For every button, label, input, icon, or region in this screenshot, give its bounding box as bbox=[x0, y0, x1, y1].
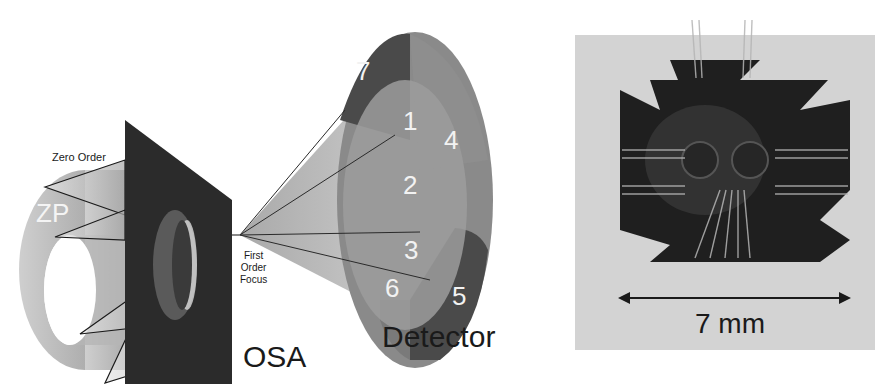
detector-segment-2: 2 bbox=[403, 172, 417, 198]
label-zone-plate: ZP bbox=[36, 200, 69, 226]
label-first-order-focus: First Order Focus bbox=[240, 250, 267, 286]
detector-segment-1: 1 bbox=[403, 108, 417, 134]
detector-segment-5: 5 bbox=[452, 283, 466, 309]
osa-plate bbox=[125, 120, 232, 384]
detector-segment-3: 3 bbox=[404, 237, 418, 263]
detector-segment-4: 4 bbox=[444, 127, 458, 153]
label-zero-order: Zero Order bbox=[52, 152, 106, 163]
detector-segment-7: 7 bbox=[356, 58, 370, 84]
schematic-diagram: Zero Order ZP First Order Focus OSA Dete… bbox=[0, 0, 540, 384]
label-detector: Detector bbox=[382, 322, 495, 352]
detector-segment-6: 6 bbox=[385, 275, 399, 301]
scale-bar-label: 7 mm bbox=[695, 310, 765, 338]
sample-photograph: 7 mm bbox=[560, 0, 884, 384]
label-osa: OSA bbox=[243, 342, 306, 372]
